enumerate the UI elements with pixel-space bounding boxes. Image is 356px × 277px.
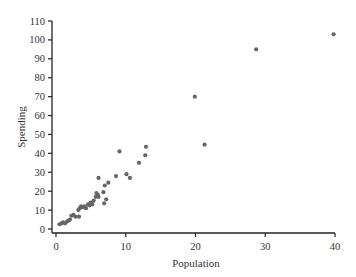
y-tick-label: 20	[35, 186, 46, 197]
data-point	[254, 47, 258, 51]
x-tick-label: 20	[190, 241, 201, 252]
x-tick-label: 30	[260, 241, 271, 252]
scatter-chart: 0102030405060708090100110 010203040 Popu…	[0, 0, 356, 277]
data-point	[96, 176, 100, 180]
data-point	[128, 176, 132, 180]
y-tick-label: 10	[35, 205, 46, 216]
data-point	[84, 206, 88, 210]
y-tick-label: 100	[29, 34, 45, 45]
x-tick-label: 0	[53, 241, 58, 252]
y-axis: 0102030405060708090100110	[29, 16, 52, 235]
x-tick-label: 40	[330, 241, 341, 252]
x-axis: 010203040	[52, 233, 340, 252]
y-tick-label: 40	[35, 148, 46, 159]
data-point	[332, 32, 336, 36]
data-point	[143, 153, 147, 157]
y-tick-label: 70	[35, 91, 46, 102]
data-point	[103, 183, 107, 187]
data-point	[106, 181, 110, 185]
y-tick-label: 30	[35, 167, 46, 178]
data-point	[144, 145, 148, 149]
y-axis-title: Spending	[15, 106, 27, 148]
y-tick-label: 90	[35, 53, 46, 64]
data-point	[137, 161, 141, 165]
y-tick-label: 50	[35, 129, 46, 140]
data-point	[124, 172, 128, 176]
y-tick-label: 80	[35, 72, 46, 83]
data-point	[202, 143, 206, 147]
data-point	[96, 195, 100, 199]
data-point	[104, 197, 108, 201]
data-point	[102, 201, 106, 205]
data-point	[193, 95, 197, 99]
data-point	[101, 190, 105, 194]
data-points	[57, 32, 335, 226]
x-axis-title: Population	[172, 257, 220, 269]
y-tick-label: 0	[40, 224, 45, 235]
data-point	[114, 174, 118, 178]
data-point	[77, 215, 81, 219]
data-point	[90, 202, 94, 206]
data-point	[92, 199, 96, 203]
y-tick-label: 110	[30, 16, 45, 27]
y-tick-label: 60	[35, 110, 46, 121]
data-point	[68, 217, 72, 221]
x-tick-label: 10	[121, 241, 132, 252]
data-point	[117, 149, 121, 153]
